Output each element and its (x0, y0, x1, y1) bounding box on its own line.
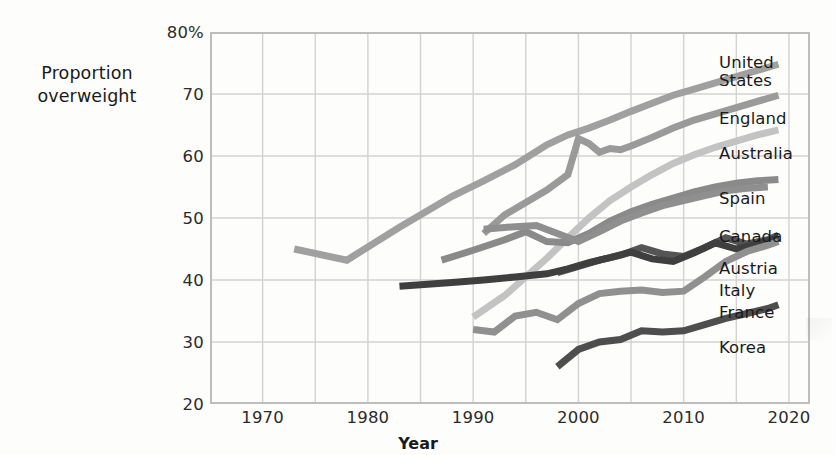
chart-figure: Proportion overweight 80%706050403020 19… (0, 0, 836, 455)
x-tick-label: 2010 (662, 408, 705, 427)
plot-area (210, 32, 810, 404)
y-axis-title: Proportion overweight (12, 62, 162, 108)
y-tick-label: 20 (144, 395, 204, 414)
series-line-korea (557, 305, 778, 367)
y-axis-title-line-2: overweight (12, 85, 162, 108)
y-tick-label: 50 (144, 209, 204, 228)
y-axis-title-line-1: Proportion (12, 62, 162, 85)
y-tick-label: 70 (144, 85, 204, 104)
data-series-group (294, 64, 778, 367)
y-axis-tick-labels: 80%706050403020 (142, 0, 204, 455)
page-scan-artifact (806, 318, 832, 340)
y-tick-label: 80% (144, 23, 204, 42)
y-tick-label: 30 (144, 333, 204, 352)
x-tick-label: 1990 (452, 408, 495, 427)
x-tick-label: 2000 (557, 408, 600, 427)
x-tick-label: 1970 (241, 408, 284, 427)
y-tick-label: 40 (144, 271, 204, 290)
x-tick-label: 1980 (346, 408, 389, 427)
x-tick-label: 2020 (768, 408, 811, 427)
y-tick-label: 60 (144, 147, 204, 166)
grid-lines (210, 32, 810, 404)
x-axis-title: Year (0, 434, 836, 453)
chart-canvas (210, 32, 810, 404)
